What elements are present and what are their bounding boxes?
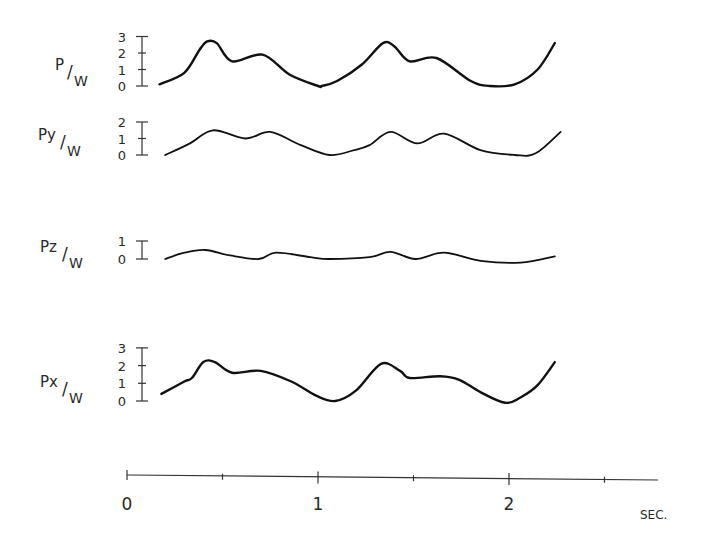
y-tick-label: 2	[118, 46, 126, 61]
x-tick-label: 2	[504, 494, 515, 514]
panel-label-slash: /	[60, 132, 66, 152]
y-tick-label: 2	[118, 115, 126, 130]
x-axis-label: SEC.	[640, 508, 667, 522]
panel-label-slash: /	[62, 379, 68, 399]
x-tick-label: 0	[122, 494, 133, 514]
panel-label-denominator: W	[74, 73, 88, 89]
y-tick-label: 3	[118, 341, 126, 356]
data-curve	[161, 360, 554, 403]
panel-label: Pz	[40, 238, 57, 256]
panel-label-denominator: W	[69, 390, 83, 406]
chart-panels: P/W0123Py/W012Pz/W01Px/W0123	[38, 30, 561, 410]
y-tick-label: 1	[118, 234, 126, 249]
y-tick-label: 0	[118, 79, 126, 94]
y-tick-label: 1	[118, 63, 126, 78]
panel-pz-over-w: Pz/W01	[40, 234, 555, 271]
x-axis-line	[127, 475, 658, 480]
panel-p-over-w: P/W0123	[55, 30, 555, 95]
y-tick-label: 0	[118, 394, 126, 409]
data-curve	[165, 250, 555, 263]
y-tick-label: 2	[118, 359, 126, 374]
data-curve	[160, 41, 555, 87]
y-tick-label: 1	[118, 132, 126, 147]
x-tick-label: 1	[313, 494, 324, 514]
data-curve	[165, 130, 560, 156]
y-tick-label: 1	[118, 376, 126, 391]
panel-label-denominator: W	[69, 255, 83, 271]
y-tick-label: 0	[118, 148, 126, 163]
panel-label-denominator: W	[67, 143, 81, 159]
panel-px-over-w: Px/W0123	[40, 341, 555, 409]
force-time-chart: P/W0123Py/W012Pz/W01Px/W0123 012SEC.	[0, 0, 715, 543]
panel-label: Px	[40, 373, 58, 391]
panel-label: Py	[38, 126, 56, 144]
x-axis: 012SEC.	[122, 470, 668, 522]
panel-label: P	[55, 56, 64, 74]
panel-label-slash: /	[62, 244, 68, 264]
y-tick-label: 3	[118, 30, 126, 45]
panel-label-slash: /	[67, 62, 73, 82]
y-tick-label: 0	[118, 252, 126, 267]
panel-py-over-w: Py/W012	[38, 115, 561, 163]
